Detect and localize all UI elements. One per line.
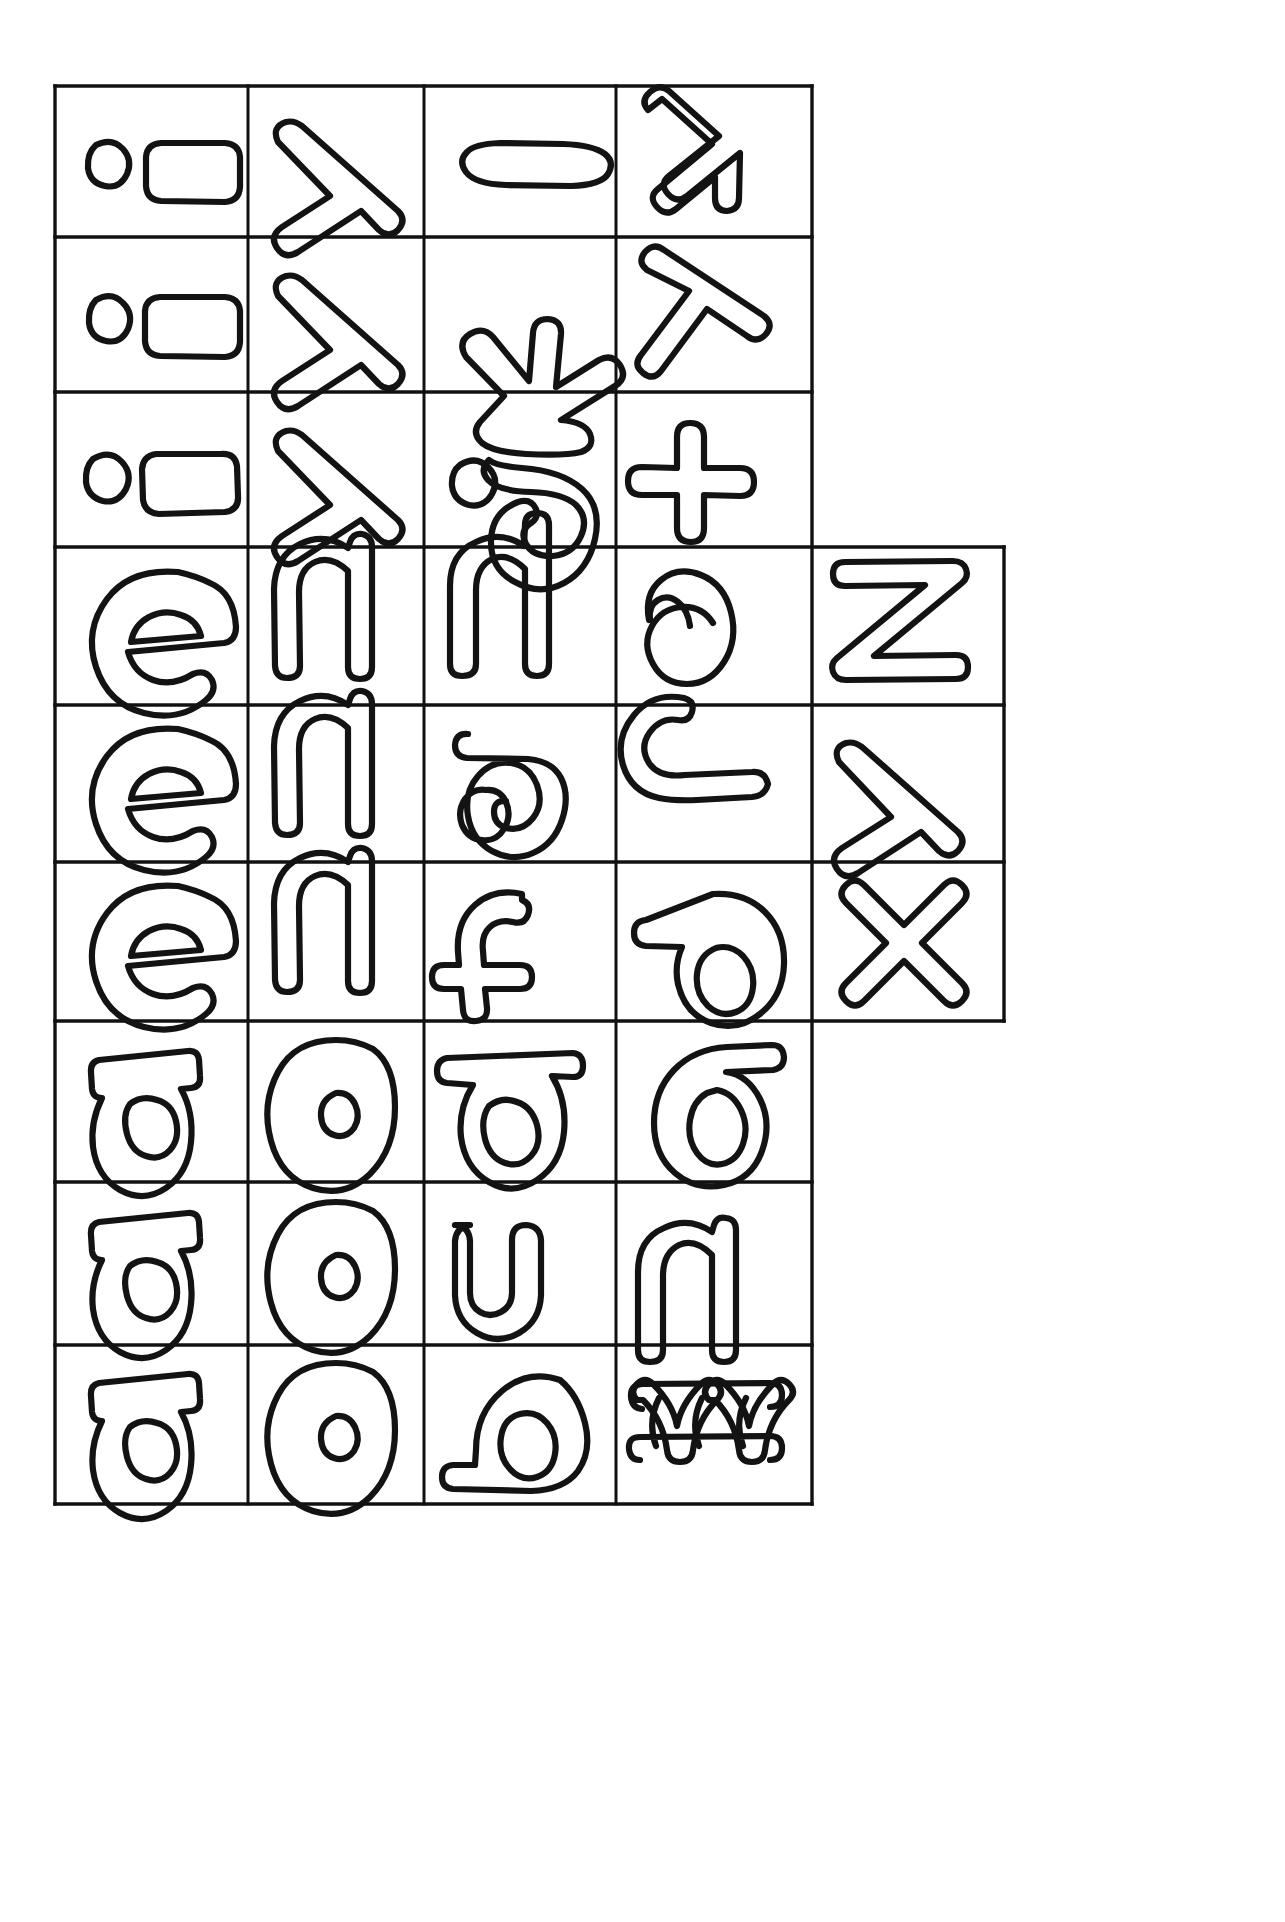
bubble-letter-grid: dot-and-bar pair (i) dot-and-bar pair (i… [0,0,1285,1922]
worksheet-page: dot-and-bar pair (i) dot-and-bar pair (i… [0,0,1285,1922]
